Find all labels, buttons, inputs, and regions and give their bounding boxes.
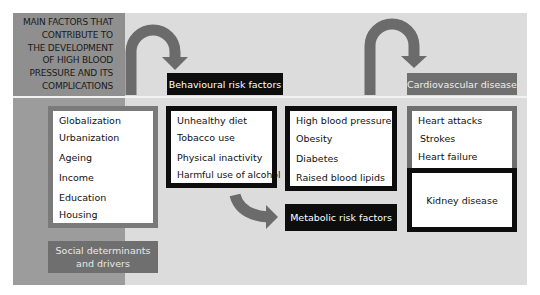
- list-item: Diabetes: [296, 153, 338, 164]
- list-item: Harmful use of alcohol: [177, 169, 280, 180]
- social-determinants-label: Social determinants and drivers: [48, 241, 158, 273]
- list-item: Kidney disease: [426, 195, 498, 206]
- list-item: Tobacco use: [177, 132, 235, 143]
- list-item: High blood pressure: [296, 115, 391, 126]
- social-determinants-box: Globalization Urbanization Ageing Income…: [48, 106, 158, 228]
- list-item: Globalization: [59, 115, 121, 126]
- cardiovascular-disease-box: Heart attacks Strokes Heart failure: [407, 106, 517, 172]
- kidney-disease-box: Kidney disease: [407, 168, 517, 232]
- list-item: Heart failure: [418, 151, 477, 162]
- metabolic-risk-factors-box: High blood pressure Obesity Diabetes Rai…: [285, 106, 397, 191]
- list-item: Income: [59, 172, 94, 183]
- behavioural-risk-factors-box: Unhealthy diet Tobacco use Physical inac…: [166, 106, 277, 188]
- metabolic-risk-factors-label: Metabolic risk factors: [285, 204, 397, 231]
- list-item: Heart attacks: [418, 115, 482, 126]
- list-item: Obesity: [296, 133, 332, 144]
- cardiovascular-disease-label: Cardiovascular disease: [407, 73, 517, 95]
- list-item: Raised blood lipids: [296, 172, 385, 183]
- list-item: Urbanization: [59, 132, 119, 143]
- list-item: Ageing: [59, 152, 92, 163]
- list-item: Unhealthy diet: [177, 115, 247, 126]
- label-line: and drivers: [76, 257, 130, 270]
- list-item: Housing: [59, 209, 98, 220]
- behavioural-risk-factors-label: Behavioural risk factors: [167, 73, 283, 95]
- list-item: Education: [59, 192, 106, 203]
- list-item: Strokes: [420, 133, 455, 144]
- label-line: Social determinants: [56, 244, 151, 257]
- list-item: Physical inactivity: [177, 152, 262, 163]
